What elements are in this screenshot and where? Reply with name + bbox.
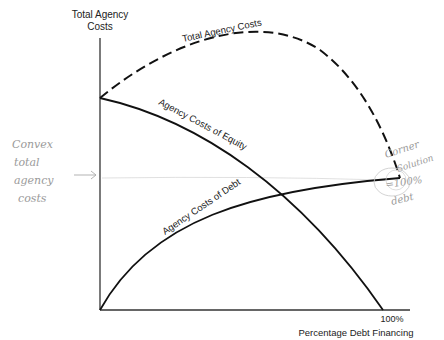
total-agency-costs-label: Total Agency Costs: [181, 16, 263, 44]
agency-costs-diagram: Total Agency Costs 100% Percentage Debt …: [0, 0, 444, 340]
right-note-line2: Solution: [396, 153, 435, 174]
left-note-line1: Convex: [12, 138, 54, 151]
pencil-horizontal-line: [102, 177, 385, 180]
right-note-line3: =100%: [385, 174, 423, 190]
total-agency-costs-curve: [100, 32, 400, 178]
y-axis-label-line1: Total Agency: [72, 9, 129, 20]
agency-costs-debt-curve: [100, 178, 400, 310]
left-note-line3: agency: [14, 174, 54, 187]
y-axis-label-line2: Costs: [87, 21, 113, 32]
x-tick-100: 100%: [380, 314, 403, 324]
x-axis-label: Percentage Debt Financing: [298, 327, 413, 338]
left-note-line4: costs: [18, 192, 47, 205]
agency-costs-equity-label: Agency Costs of Equity: [157, 96, 249, 152]
right-note-line4: debt: [390, 191, 416, 207]
left-note-line2: total: [14, 156, 40, 169]
right-note-line1: Corner: [383, 138, 421, 160]
agency-costs-debt-label: Agency Costs of Debt: [160, 176, 243, 237]
left-note-arrow-icon: [74, 171, 96, 179]
